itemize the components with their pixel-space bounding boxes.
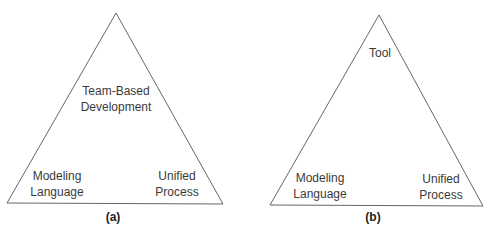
right-b-line2: Process: [412, 187, 470, 203]
right-a-line1: Unified: [148, 168, 206, 184]
left-b-line1: Modeling: [287, 170, 353, 186]
left-label-b: Modeling Language: [287, 170, 353, 202]
right-label-b: Unified Process: [412, 171, 470, 203]
left-a-line1: Modeling: [24, 168, 90, 184]
caption-b: (b): [358, 210, 388, 224]
right-a-line2: Process: [148, 184, 206, 200]
caption-a: (a): [98, 210, 128, 224]
left-label-a: Modeling Language: [24, 168, 90, 200]
right-label-a: Unified Process: [148, 168, 206, 200]
left-a-line2: Language: [24, 184, 90, 200]
apex-b-line1: Tool: [355, 45, 405, 61]
apex-label-b: Tool: [355, 45, 405, 61]
apex-label-a: Team-Based Development: [70, 83, 162, 115]
left-b-line2: Language: [287, 186, 353, 202]
apex-a-line1: Team-Based: [70, 83, 162, 99]
apex-a-line2: Development: [70, 99, 162, 115]
right-b-line1: Unified: [412, 171, 470, 187]
